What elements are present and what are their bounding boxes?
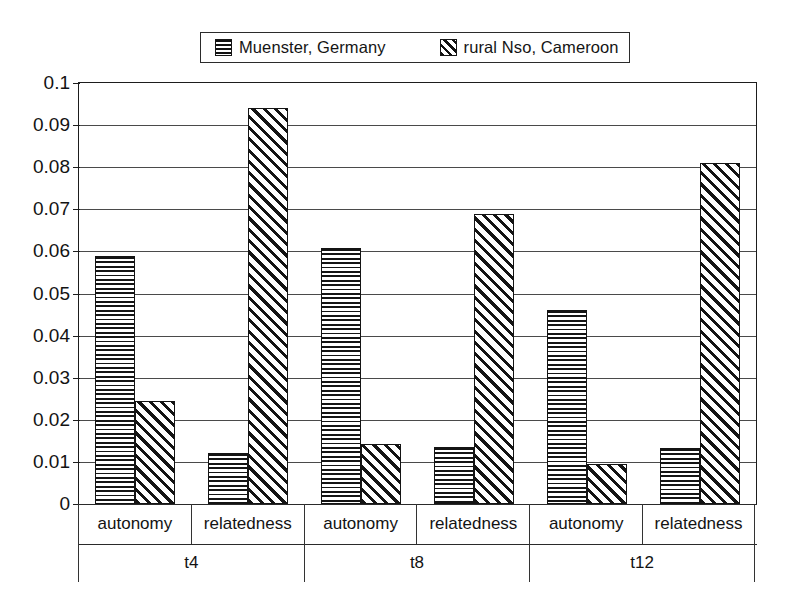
y-tick-mark [73,336,80,337]
bar [700,163,740,504]
y-tick-label: 0.04 [33,325,70,347]
group-label-t12: t12 [529,544,755,582]
y-tick-label: 0.1 [44,72,70,94]
gridline [79,209,756,210]
group-label-t4: t4 [78,544,304,582]
bar [361,444,401,504]
y-tick-mark [73,420,80,421]
y-tick-mark [73,251,80,252]
bar [547,310,587,504]
y-tick-mark [73,209,80,210]
gridline [79,167,756,168]
y-tick-mark [73,83,80,84]
subcategory-row: autonomyrelatednessautonomyrelatednessau… [78,504,757,544]
y-tick-label: 0.09 [33,114,70,136]
bar-chart-figure: Muenster, Germany rural Nso, Cameroon 00… [0,0,789,603]
bar [474,214,514,504]
subcategory-label-relatedness: relatedness [642,504,755,544]
gridline [79,462,756,463]
legend-label-nso: rural Nso, Cameroon [464,38,619,57]
y-tick-label: 0.08 [33,156,70,178]
bar [660,448,700,504]
gridline [79,378,756,379]
bar [135,401,175,504]
gridline [79,420,756,421]
y-tick-label: 0.02 [33,409,70,431]
y-tick-mark [73,125,80,126]
y-tick-mark [73,167,80,168]
plot-area: 00.010.020.030.040.050.060.070.080.090.1 [78,82,757,505]
category-axis: autonomyrelatednessautonomyrelatednessau… [78,504,757,582]
gridline [79,251,756,252]
legend-label-muenster: Muenster, Germany [239,38,386,57]
y-tick-label: 0.01 [33,451,70,473]
y-tick-mark [73,462,80,463]
subcategory-label-autonomy: autonomy [529,504,642,544]
legend-entry-nso: rural Nso, Cameroon [440,33,619,62]
legend-entry-muenster: Muenster, Germany [215,33,386,62]
bar [434,447,474,504]
bar [587,464,627,504]
bar [321,248,361,504]
legend-swatch-diagonal-hatch-icon [440,39,457,56]
group-row: t4t8t12 [78,544,757,582]
y-tick-mark [73,378,80,379]
y-tick-label: 0.05 [33,283,70,305]
gridline [79,294,756,295]
subcategory-label-relatedness: relatedness [416,504,529,544]
y-tick-label: 0.07 [33,198,70,220]
y-tick-mark [73,294,80,295]
subcategory-label-autonomy: autonomy [304,504,417,544]
subcategory-label-relatedness: relatedness [191,504,304,544]
bar [95,256,135,504]
y-tick-label: 0 [59,493,70,515]
y-tick-label: 0.06 [33,240,70,262]
chart-legend: Muenster, Germany rural Nso, Cameroon [200,32,630,63]
gridline [79,336,756,337]
y-tick-label: 0.03 [33,367,70,389]
gridline [79,125,756,126]
bar [208,453,248,504]
subcategory-label-autonomy: autonomy [78,504,191,544]
group-label-t8: t8 [304,544,530,582]
bar [248,108,288,504]
legend-swatch-horizontal-lines-icon [215,39,232,56]
